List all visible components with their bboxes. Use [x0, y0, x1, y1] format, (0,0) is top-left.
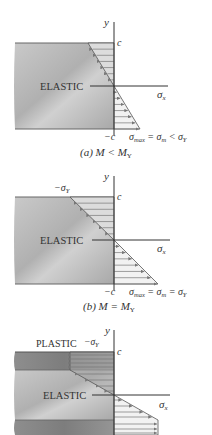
yield-stress-top-label: −σY	[54, 182, 71, 194]
plastic-zone-bottom	[14, 420, 114, 435]
max-stress-label: σmax = σm < σY	[129, 131, 188, 143]
diagram-canvas: y c −c ELASTIC σx σmax = σm < σY (a) M <…	[0, 0, 212, 435]
plastic-zone-label: PLASTIC	[36, 338, 77, 349]
panel-a-caption: (a) M < MY	[80, 146, 132, 160]
elastic-zone-label: ELASTIC	[40, 235, 83, 246]
top-fiber-label: c	[117, 346, 122, 357]
panel-b: y −σY c −c ELASTIC σx σmax = σm = σY (b)…	[14, 170, 188, 314]
x-axis-label: σx	[157, 88, 166, 102]
bottom-fiber-label: −c	[104, 286, 116, 297]
x-axis-label: σx	[157, 242, 166, 256]
top-fiber-label: c	[117, 191, 122, 202]
y-axis-label: y	[104, 324, 110, 336]
panel-a: y c −c ELASTIC σx σmax = σm < σY (a) M <…	[14, 16, 188, 160]
y-axis-label: y	[103, 170, 109, 182]
yield-stress-top-label: −σY	[84, 337, 100, 348]
top-fiber-label: c	[117, 37, 122, 48]
max-stress-label: σmax = σm = σY	[129, 286, 188, 298]
elastic-zone-label: ELASTIC	[40, 81, 83, 92]
x-axis-label: σx	[159, 398, 168, 412]
elastic-zone-label: ELASTIC	[43, 390, 86, 401]
panel-b-caption: (b) M = MY	[83, 300, 135, 314]
y-axis-label: y	[103, 16, 109, 28]
panel-c: y PLASTIC −σY c ELASTIC σx	[14, 324, 170, 435]
bottom-fiber-label: −c	[104, 131, 116, 142]
